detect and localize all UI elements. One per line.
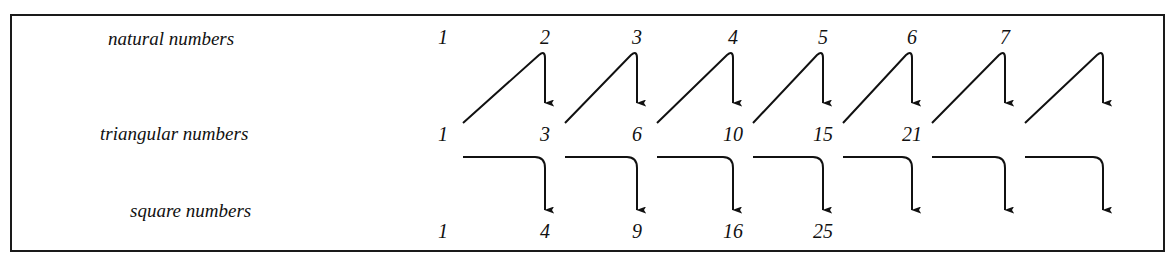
- diagonal-arrow-1: [463, 53, 545, 123]
- square-arrow-2: [565, 157, 637, 210]
- arrow-layer: [0, 0, 1175, 266]
- diagonal-arrow-5: [843, 53, 912, 123]
- square-arrow-1: [463, 157, 545, 210]
- square-arrow-4: [753, 157, 823, 210]
- square-arrow-3: [657, 157, 733, 210]
- diagonal-arrow-2: [565, 53, 637, 123]
- square-arrow-7: [1025, 157, 1103, 210]
- diagonal-arrow-4: [753, 53, 823, 123]
- diagonal-arrow-7: [1025, 53, 1103, 123]
- diagonal-arrow-6: [932, 53, 1005, 123]
- square-arrow-5: [843, 157, 912, 210]
- diagonal-arrow-3: [657, 53, 733, 123]
- square-arrow-6: [932, 157, 1005, 210]
